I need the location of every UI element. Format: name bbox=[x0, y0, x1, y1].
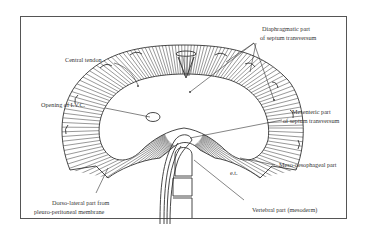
hatch-line bbox=[202, 138, 325, 205]
hatch-line bbox=[204, 130, 343, 146]
hatch-line bbox=[60, 141, 168, 229]
hatch-line bbox=[35, 135, 165, 187]
hatch-line bbox=[191, 147, 238, 236]
hatch-line bbox=[186, 148, 202, 236]
hatch-line bbox=[25, 115, 165, 127]
label-vertebral-part: Vertebral part (mesoderm) bbox=[252, 206, 317, 214]
hatch-line bbox=[190, 0, 234, 109]
hatch-line bbox=[25, 130, 164, 145]
label-diaphragmatic-part: Diaphragmatic part bbox=[262, 25, 310, 32]
ivc-opening bbox=[146, 113, 160, 122]
hatch-line bbox=[173, 0, 182, 108]
hatch-line bbox=[33, 135, 165, 182]
hatch-line bbox=[72, 142, 170, 236]
hatch-line bbox=[25, 109, 164, 126]
hatch-line bbox=[43, 137, 166, 203]
hatch-line bbox=[198, 142, 299, 236]
hatch-line bbox=[203, 134, 336, 176]
hatch-line bbox=[177, 148, 183, 236]
hatch-line bbox=[201, 138, 321, 210]
hatch-line bbox=[203, 135, 335, 182]
hatch-line bbox=[201, 43, 319, 118]
label-dorsolateral-2: pleuro-peritoneal membrane bbox=[34, 208, 105, 215]
hatch-line bbox=[199, 141, 303, 234]
label-diaphragmatic-part-2: of septum transversum bbox=[260, 34, 317, 41]
hatch-line bbox=[190, 0, 229, 109]
hatch-line bbox=[185, 148, 195, 236]
hatch-line bbox=[31, 134, 165, 175]
hatch-line bbox=[24, 121, 164, 127]
hatch-line bbox=[199, 141, 307, 230]
label-central-tendon: Central tendon bbox=[65, 56, 102, 63]
hatch-line bbox=[39, 61, 166, 119]
hatch-line bbox=[104, 0, 174, 111]
hatch-line bbox=[196, 2, 282, 112]
hatch-line bbox=[199, 18, 301, 114]
hatch-line bbox=[40, 137, 166, 198]
hatch-line bbox=[194, 145, 265, 236]
hatch-line bbox=[192, 0, 251, 110]
hatch-line bbox=[161, 0, 181, 108]
hatch-line bbox=[201, 139, 318, 215]
diaphragm-diagram: Diaphragmatic part of septum transversum… bbox=[0, 0, 368, 236]
label-meso-oesophageal: Meso-oesophageal part bbox=[279, 161, 337, 168]
hatch-line bbox=[34, 73, 165, 121]
hatch-line bbox=[185, 148, 190, 236]
hatch-line bbox=[187, 148, 208, 236]
hatch-line bbox=[112, 146, 175, 236]
label-mesenteric-part: Mesenteric part bbox=[292, 108, 331, 115]
hatch-line bbox=[194, 146, 261, 236]
hatch-line bbox=[204, 124, 344, 127]
hatch-line bbox=[195, 144, 275, 236]
label-opening-ivc: Opening of I.V.C. bbox=[41, 101, 86, 108]
label-small-mark: e.t. bbox=[230, 169, 238, 176]
hatch-line bbox=[196, 144, 281, 236]
hatch-line bbox=[197, 143, 286, 236]
label-mesenteric-part-2: of septum transversum bbox=[283, 117, 340, 124]
hatch-line bbox=[184, 0, 185, 108]
hatch-line bbox=[68, 142, 169, 236]
hatch-line bbox=[204, 132, 341, 159]
hatch-line bbox=[180, 0, 184, 108]
hatch-line bbox=[64, 141, 169, 234]
label-dorsolateral: Dorso-lateral part from bbox=[52, 199, 110, 206]
hatch-line bbox=[24, 127, 164, 128]
hatch-line bbox=[93, 0, 172, 112]
hatch-line bbox=[24, 129, 164, 133]
hatch-line bbox=[153, 148, 180, 236]
hatch-line bbox=[114, 0, 175, 110]
hatch-line bbox=[137, 0, 178, 109]
hatch-line bbox=[167, 0, 182, 108]
hatch-line bbox=[197, 143, 290, 236]
hatch-line bbox=[102, 145, 174, 236]
vertebral-column bbox=[173, 148, 192, 219]
hatch-line bbox=[188, 147, 219, 236]
hatch-line bbox=[191, 147, 243, 236]
hatch-line bbox=[192, 0, 246, 110]
hatch-line bbox=[197, 6, 287, 113]
hatch-line bbox=[194, 0, 267, 111]
hatch-line bbox=[36, 67, 165, 120]
